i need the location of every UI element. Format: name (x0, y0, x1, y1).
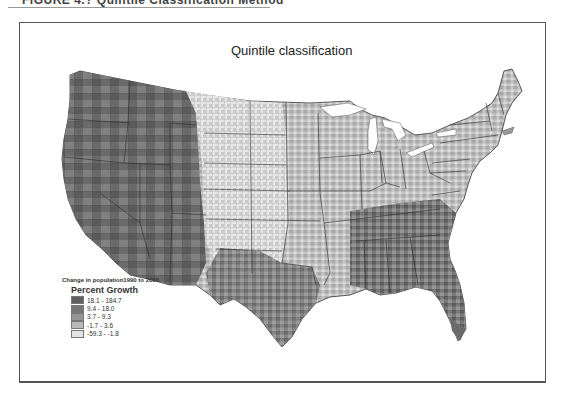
legend-label: 18.1 - 184.7 (87, 297, 122, 304)
legend-item: -1.7 - 3.6 (71, 321, 159, 329)
legend-swatch-2 (71, 305, 84, 313)
legend-subtitle: Change in population1990 to 2000 (62, 277, 159, 283)
legend-label: -59.3 - -1.8 (87, 330, 119, 337)
region-west (62, 71, 206, 285)
legend-swatch-3 (71, 313, 84, 321)
figure-caption: FIGURE 4.? Quintile Classification Metho… (22, 0, 284, 7)
map-frame: Quintile classification Change in popula… (19, 22, 546, 383)
legend-label: 9.4 - 18.0 (87, 305, 114, 312)
legend-label: 3.7 - 9.3 (87, 313, 111, 320)
legend-label: -1.7 - 3.6 (87, 322, 113, 329)
legend-item: 3.7 - 9.3 (71, 313, 159, 321)
legend-title: Percent Growth (71, 285, 159, 295)
legend-swatch-5 (71, 330, 84, 338)
legend-swatch-4 (71, 321, 84, 329)
legend-swatch-1 (71, 296, 84, 304)
map-title: Quintile classification (231, 43, 352, 58)
region-southeast (350, 199, 466, 341)
legend-item: 18.1 - 184.7 (71, 296, 159, 304)
caption-divider (8, 7, 270, 8)
cape-cod (502, 127, 514, 135)
map-legend: Change in population1990 to 2000 Percent… (62, 277, 159, 338)
legend-item: 9.4 - 18.0 (71, 304, 159, 312)
legend-item: -59.3 - -1.8 (71, 330, 159, 338)
